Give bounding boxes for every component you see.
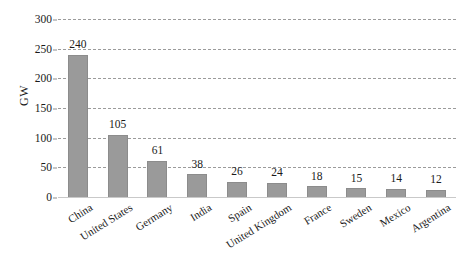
bar — [267, 183, 287, 197]
y-axis-tick-mark — [53, 198, 57, 199]
bar-value-label: 38 — [192, 159, 204, 171]
bar-value-label: 240 — [69, 39, 86, 51]
bar — [187, 174, 207, 197]
y-axis-tick-label: 300 — [35, 14, 52, 26]
bar-value-label: 18 — [311, 171, 323, 183]
bar-value-label: 24 — [271, 167, 283, 179]
bar — [147, 161, 167, 197]
y-axis-tick-mark — [53, 138, 57, 139]
y-axis-tick-mark — [53, 168, 57, 169]
y-axis-tick-label: 200 — [35, 74, 52, 86]
bar-value-label: 15 — [351, 173, 363, 185]
bar-value-label: 12 — [430, 174, 442, 186]
bar-value-label: 14 — [391, 173, 403, 185]
y-axis-tick-label: 0 — [46, 192, 52, 204]
bar — [227, 182, 247, 197]
y-axis-tick-mark — [53, 20, 57, 21]
y-axis-tick-mark — [53, 109, 57, 110]
y-axis-tick-mark — [53, 49, 57, 50]
axis-baseline: 0 — [58, 197, 456, 198]
bar — [346, 188, 366, 197]
bars-layer: 2401056138262418151412 — [58, 19, 456, 197]
bar-value-label: 26 — [231, 166, 243, 178]
y-axis-tick-label: 50 — [41, 163, 53, 175]
bar — [386, 189, 406, 197]
bar — [426, 190, 446, 197]
bar-value-label: 61 — [152, 145, 164, 157]
y-axis-tick-mark — [53, 79, 57, 80]
bar — [307, 186, 327, 197]
bar-value-label: 105 — [109, 119, 126, 131]
y-axis-title: GW — [17, 76, 32, 116]
y-axis-tick-label: 150 — [35, 103, 52, 115]
y-axis-tick-label: 100 — [35, 133, 52, 145]
plot-area: 050100150200250300 240105613826241815141… — [58, 19, 456, 197]
bar-chart: GW 050100150200250300 240105613826241815… — [0, 0, 472, 274]
bar — [108, 135, 128, 197]
x-axis-category-labels: ChinaUnited StatesGermanyIndiaSpainUnite… — [58, 199, 456, 273]
y-axis-tick-label: 250 — [35, 44, 52, 56]
bar — [68, 55, 88, 197]
